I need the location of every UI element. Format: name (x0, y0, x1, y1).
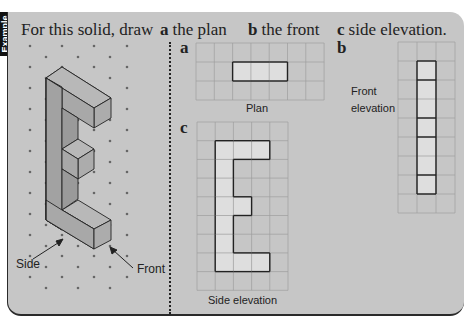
front-elevation-grid (0, 0, 466, 321)
